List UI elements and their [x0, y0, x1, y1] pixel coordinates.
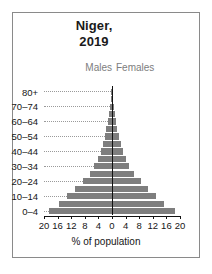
bar-males [101, 148, 112, 154]
bar-males [59, 201, 112, 207]
bar-females [112, 148, 123, 154]
bar-males [98, 156, 112, 162]
x-tick-mark [139, 216, 140, 219]
legend-label-males: Males [60, 62, 112, 73]
gridline [44, 166, 94, 167]
gridline [44, 151, 101, 152]
x-tick-mark [166, 216, 167, 219]
gridline [44, 181, 83, 182]
y-tick-label: 60–64 [12, 117, 38, 126]
y-tick-label: 50–54 [12, 132, 38, 141]
x-tick-mark [44, 216, 45, 219]
x-tick-mark [153, 216, 154, 219]
bar-males [105, 133, 112, 139]
gridline [44, 196, 67, 197]
bar-males [90, 171, 112, 177]
x-tick-label: 20 [171, 220, 189, 231]
y-tick-label: 10–14 [12, 192, 38, 201]
chart-title-line-1: Niger, [0, 18, 188, 34]
y-tick-label: 70–74 [12, 102, 38, 111]
bar-males [103, 141, 112, 147]
x-tick-mark [180, 216, 181, 219]
chart-title: Niger, 2019 [0, 18, 188, 50]
bar-males [94, 163, 112, 169]
x-tick-mark [112, 216, 113, 219]
bar-females [112, 208, 175, 214]
bar-males [75, 186, 112, 192]
bar-females [112, 171, 134, 177]
bar-females [112, 178, 141, 184]
bar-females [112, 156, 126, 162]
y-tick-label: 20–24 [12, 177, 38, 186]
x-tick-mark [98, 216, 99, 219]
y-tick-label: 0–4 [22, 207, 38, 216]
chart-title-line-2: 2019 [0, 34, 188, 50]
bar-females [112, 186, 148, 192]
bar-females [112, 193, 156, 199]
x-tick-mark [85, 216, 86, 219]
bar-males [83, 178, 112, 184]
x-axis-title: % of population [0, 236, 212, 247]
gridline [44, 136, 105, 137]
bar-males [67, 193, 112, 199]
center-axis-line [112, 86, 113, 215]
plot-area [44, 88, 180, 215]
y-tick-label: 80+ [22, 88, 38, 97]
y-tick-label: 30–34 [12, 162, 38, 171]
gridline [44, 91, 111, 92]
y-tick-label: 40–44 [12, 147, 38, 156]
bar-females [112, 163, 129, 169]
y-axis-tick-labels: 0–410–1420–2430–3440–4450–5460–6470–7480… [0, 88, 41, 215]
x-tick-mark [71, 216, 72, 219]
population-pyramid-figure: Niger, 2019 Males Females 0–410–1420–243… [0, 0, 212, 274]
gridline [44, 121, 108, 122]
bar-females [112, 201, 164, 207]
x-tick-mark [58, 216, 59, 219]
gridline [44, 106, 110, 107]
x-tick-mark [126, 216, 127, 219]
bar-males [49, 208, 112, 214]
legend-label-females: Females [116, 62, 176, 73]
